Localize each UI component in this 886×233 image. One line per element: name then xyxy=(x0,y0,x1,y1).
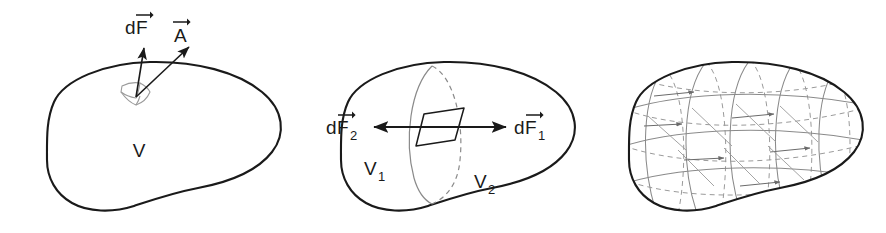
force-vector-label: d F xyxy=(125,12,154,38)
volume-label: V xyxy=(133,140,146,161)
force-vector-2-label-subscript: 2 xyxy=(350,128,357,143)
force-vector-label-symbol: F xyxy=(136,17,148,38)
subvolume-2-label-subscript: 2 xyxy=(488,182,495,197)
area-vector-label-symbol: A xyxy=(174,25,187,46)
subvolume-1-label-symbol: V xyxy=(364,158,377,179)
force-vector-1-label-subscript: 1 xyxy=(538,128,545,143)
panel-volume-surface-element: d F A V xyxy=(0,0,300,233)
figure-root: d F A V xyxy=(0,0,886,233)
internal-arrows xyxy=(644,92,810,186)
cell-diagonals xyxy=(648,104,818,186)
force-vector-label-prefix: d xyxy=(125,17,136,38)
force-vector-2-label-symbol: F xyxy=(337,117,349,138)
force-vector-1-label-symbol: F xyxy=(525,117,537,138)
force-vector-2-label-prefix: d xyxy=(326,117,337,138)
panel-volume-subdivided-grid xyxy=(582,0,886,233)
volume-outline xyxy=(47,62,281,211)
subvolume-2-label-symbol: V xyxy=(474,171,487,192)
area-vector-label: A xyxy=(173,19,191,46)
cell-grid xyxy=(624,60,874,218)
subvolume-1-label-subscript: 1 xyxy=(378,169,385,184)
panel-volume-split-in-two: d F 2 d F 1 V 1 xyxy=(292,0,592,233)
force-vector-1-label-prefix: d xyxy=(514,117,525,138)
